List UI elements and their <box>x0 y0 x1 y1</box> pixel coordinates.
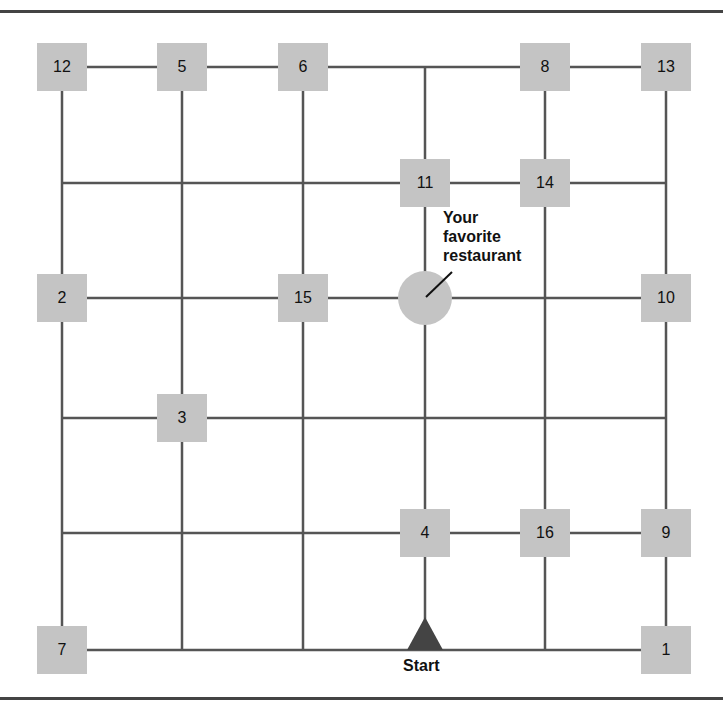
restaurant-label-line-3: restaurant <box>443 246 521 265</box>
node-3: 3 <box>157 394 207 442</box>
node-12: 12 <box>37 43 87 91</box>
node-13: 13 <box>641 43 691 91</box>
node-11: 11 <box>400 159 450 207</box>
node-7: 7 <box>37 626 87 674</box>
node-14: 14 <box>520 159 570 207</box>
node-15: 15 <box>278 274 328 322</box>
start-label: Start <box>403 656 439 675</box>
node-1: 1 <box>641 626 691 674</box>
node-2: 2 <box>37 274 87 322</box>
node-4: 4 <box>400 509 450 557</box>
node-9: 9 <box>641 509 691 557</box>
restaurant-label-line-2: favorite <box>443 227 521 246</box>
node-6: 6 <box>278 43 328 91</box>
node-16: 16 <box>520 509 570 557</box>
street-grid <box>0 0 723 710</box>
node-5: 5 <box>157 43 207 91</box>
restaurant-marker <box>398 271 452 325</box>
node-10: 10 <box>641 274 691 322</box>
restaurant-label: Your favorite restaurant <box>443 208 521 265</box>
restaurant-label-line-1: Your <box>443 208 521 227</box>
node-8: 8 <box>520 43 570 91</box>
